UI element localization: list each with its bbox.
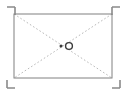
center-dot [60, 45, 63, 48]
diagram-canvas [0, 0, 128, 96]
registration-frame-diagram [0, 0, 128, 96]
